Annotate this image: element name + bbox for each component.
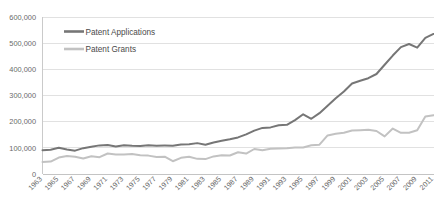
series-line-patent-grants bbox=[43, 115, 434, 162]
x-axis-tick-label: 2007 bbox=[385, 175, 403, 193]
x-axis-tick-label: 2011 bbox=[418, 175, 434, 192]
x-axis-tick-label: 1963 bbox=[26, 175, 44, 193]
y-axis-tick-label: 600,000 bbox=[9, 13, 36, 22]
x-axis-tick-label: 1983 bbox=[189, 175, 207, 193]
x-axis-tick-label: 1989 bbox=[238, 175, 256, 193]
x-axis-tick-label: 1965 bbox=[43, 175, 61, 193]
x-axis-tick-label: 2003 bbox=[352, 175, 370, 193]
x-axis-tick-label: 1991 bbox=[254, 175, 272, 193]
x-axis-tick-label: 1997 bbox=[303, 175, 321, 193]
gridlines-group bbox=[43, 17, 434, 174]
y-axis-tick-label: 300,000 bbox=[9, 91, 36, 100]
x-axis-tick-label: 1995 bbox=[287, 175, 305, 193]
x-axis-tick-label: 1985 bbox=[205, 175, 223, 193]
x-axis-tick-label: 2001 bbox=[336, 175, 354, 193]
x-axis-tick-label: 1977 bbox=[140, 175, 158, 193]
legend-label: Patent Applications bbox=[86, 28, 156, 37]
x-axis-tick-label: 2009 bbox=[401, 175, 419, 193]
x-axis-tick-label: 1975 bbox=[124, 175, 142, 193]
x-axis-tick-label: 1981 bbox=[173, 175, 191, 193]
x-axis-tick-label: 1987 bbox=[222, 175, 240, 193]
y-axis-tick-label: 500,000 bbox=[9, 39, 36, 48]
y-axis-tick-labels: 0100,000200,000300,000400,000500,000600,… bbox=[9, 13, 36, 179]
x-axis-tick-label: 1979 bbox=[157, 175, 175, 193]
patent-trends-chart: 0100,000200,000300,000400,000500,000600,… bbox=[0, 0, 434, 219]
chart-canvas: 0100,000200,000300,000400,000500,000600,… bbox=[0, 0, 434, 219]
legend-label: Patent Grants bbox=[86, 45, 137, 54]
x-axis-tick-label: 1999 bbox=[319, 175, 337, 193]
x-axis-tick-labels: 1963196519671969197119731975197719791981… bbox=[26, 175, 434, 193]
x-axis-tick-label: 1969 bbox=[75, 175, 93, 193]
x-axis-tick-label: 1973 bbox=[108, 175, 126, 193]
y-axis-tick-label: 200,000 bbox=[9, 117, 36, 126]
y-axis-tick-label: 400,000 bbox=[9, 65, 36, 74]
chart-legend: Patent ApplicationsPatent Grants bbox=[64, 28, 155, 55]
y-axis-tick-label: 100,000 bbox=[9, 144, 36, 153]
x-axis-tick-label: 1993 bbox=[271, 175, 289, 193]
x-axis-tick-label: 1967 bbox=[59, 175, 77, 193]
x-axis-tick-label: 2005 bbox=[368, 175, 386, 193]
x-axis-tick-label: 1971 bbox=[91, 175, 109, 193]
